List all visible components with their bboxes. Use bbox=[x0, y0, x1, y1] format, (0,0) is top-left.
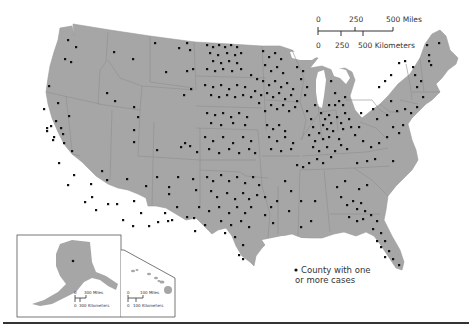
alaska-scale-miles-300: 300 Miles bbox=[84, 290, 103, 295]
gulf-of-mexico bbox=[262, 236, 366, 266]
hawaii-scale-miles-100: 100 Miles bbox=[140, 290, 159, 295]
contiguous-us-landmass bbox=[46, 24, 458, 270]
main-scale-bar bbox=[318, 27, 393, 36]
legend-dot-symbol bbox=[294, 268, 297, 271]
scale-km-0: 0 bbox=[316, 41, 321, 50]
alaska-case-dot bbox=[72, 260, 75, 263]
hawaii-scale-km-100: 100 Kilometers bbox=[133, 303, 163, 308]
lake-erie-ontario bbox=[352, 80, 386, 100]
legend-line-1: County with one bbox=[301, 265, 371, 275]
alaska-scale-km-300: 300 Kilometers bbox=[79, 303, 109, 308]
bottom-rule-divider bbox=[3, 322, 469, 324]
scale-km-500: 500 Kilometers bbox=[358, 41, 415, 50]
legend-line-2: or more cases bbox=[295, 275, 356, 285]
scale-miles-0: 0 bbox=[316, 15, 321, 24]
scale-miles-250: 250 bbox=[349, 15, 364, 24]
us-county-case-map: 0 250 500 Miles 0 250 500 Kilometers 0 3… bbox=[0, 0, 473, 330]
scale-km-250: 250 bbox=[335, 41, 350, 50]
scale-miles-500: 500 Miles bbox=[386, 15, 422, 24]
